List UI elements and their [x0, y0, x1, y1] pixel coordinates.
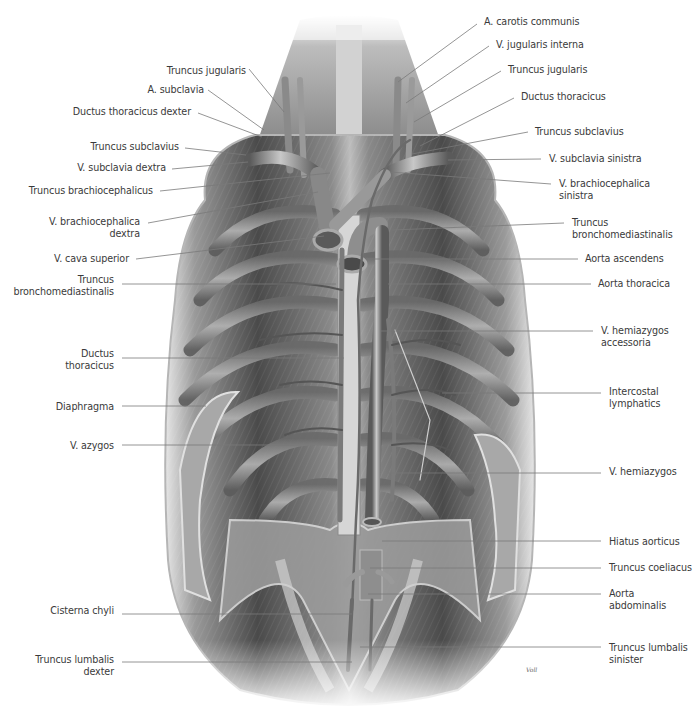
label-v-brachiocephalica-dextra: V. brachiocephalicadextra: [49, 216, 140, 240]
label-text-line: thoracicus: [65, 360, 114, 372]
leader-line-ductus-thoracicus-dexter: [198, 113, 262, 137]
label-text-line: Truncus jugularis: [167, 65, 246, 77]
leader-line-v-jugularis-interna: [406, 46, 489, 103]
label-text-line: dextra: [49, 228, 140, 240]
label-aorta-thoracica: Aorta thoracica: [598, 278, 670, 290]
label-aorta-abdominalis: Aortaabdominalis: [609, 588, 666, 612]
label-text-line: Truncus lumbalis: [609, 642, 688, 654]
label-text-line: Truncus subclavius: [535, 126, 624, 138]
label-text-line: accessoria: [601, 337, 669, 349]
label-text-line: Truncus jugularis: [508, 64, 587, 76]
label-text-line: Truncus coeliacus: [609, 562, 692, 574]
label-text-line: dexter: [35, 666, 114, 678]
label-aorta-ascendens: Aorta ascendens: [585, 253, 664, 265]
label-text-line: V. cava superior: [54, 253, 129, 265]
label-text-line: Ductus thoracicus: [521, 91, 606, 103]
label-ductus-thoracicus-left-label: Ductusthoracicus: [65, 348, 114, 372]
label-truncus-subclavius-right: Truncus subclavius: [90, 141, 179, 153]
label-text-line: V. brachiocephalica: [559, 178, 650, 190]
label-text-line: bronchomediastinalis: [13, 286, 114, 298]
label-text-line: Hiatus aorticus: [609, 536, 680, 548]
label-v-subclavia-sinistra: V. subclavia sinistra: [549, 153, 642, 165]
label-text-line: A. subclavia: [147, 84, 204, 96]
label-text-line: A. carotis communis: [484, 16, 580, 28]
label-v-hemiazygos: V. hemiazygos: [609, 466, 677, 478]
label-text-line: V. subclavia dextra: [77, 162, 166, 174]
label-cisterna-chyli: Cisterna chyli: [50, 605, 114, 617]
label-v-jugularis-interna: V. jugularis interna: [496, 39, 584, 51]
label-text-line: Aorta thoracica: [598, 278, 670, 290]
label-truncus-coeliacus: Truncus coeliacus: [609, 562, 692, 574]
label-text-line: Truncus: [572, 217, 673, 229]
label-text-line: Intercostal: [609, 386, 660, 398]
label-truncus-bronchomediastinalis-left: Truncusbronchomediastinalis: [572, 217, 673, 241]
label-hiatus-aorticus: Hiatus aorticus: [609, 536, 680, 548]
label-text-line: Truncus subclavius: [90, 141, 179, 153]
label-v-hemiazygos-accessoria: V. hemiazygosaccessoria: [601, 325, 669, 349]
label-text-line: abdominalis: [609, 600, 666, 612]
label-text-line: lymphatics: [609, 398, 660, 410]
leader-line-a-subclavia: [208, 90, 264, 130]
label-text-line: V. azygos: [70, 440, 114, 452]
label-text-line: Truncus lumbalis: [35, 654, 114, 666]
label-text-line: Diaphragma: [56, 401, 114, 413]
label-text-line: V. hemiazygos: [601, 325, 669, 337]
label-text-line: V. subclavia sinistra: [549, 153, 642, 165]
label-intercostal-lymphatics: Intercostallymphatics: [609, 386, 660, 410]
label-text-line: V. jugularis interna: [496, 39, 584, 51]
label-text-line: Aorta ascendens: [585, 253, 664, 265]
label-ductus-thoracicus-dexter: Ductus thoracicus dexter: [73, 106, 191, 118]
label-v-cava-superior: V. cava superior: [54, 253, 129, 265]
label-ductus-thoracicus: Ductus thoracicus: [521, 91, 606, 103]
label-text-line: V. brachiocephalica: [49, 216, 140, 228]
label-text-line: Ductus: [65, 348, 114, 360]
label-text-line: bronchomediastinalis: [572, 229, 673, 241]
leader-line-ductus-thoracicus: [420, 98, 514, 146]
label-a-carotis-communis: A. carotis communis: [484, 16, 580, 28]
label-truncus-lumbalis-sinister: Truncus lumbalissinister: [609, 642, 688, 666]
label-diaphragma: Diaphragma: [56, 401, 114, 413]
label-v-subclavia-dextra: V. subclavia dextra: [77, 162, 166, 174]
label-truncus-subclavius-left: Truncus subclavius: [535, 126, 624, 138]
artist-signature: Voll: [526, 666, 537, 673]
label-a-subclavia: A. subclavia: [147, 84, 204, 96]
label-v-azygos: V. azygos: [70, 440, 114, 452]
label-truncus-brachiocephalicus: Truncus brachiocephalicus: [29, 185, 153, 197]
label-text-line: Aorta: [609, 588, 666, 600]
label-text-line: V. hemiazygos: [609, 466, 677, 478]
label-v-brachiocephalica-sinistra: V. brachiocephalicasinistra: [559, 178, 650, 202]
label-text-line: Truncus brachiocephalicus: [29, 185, 153, 197]
label-text-line: Truncus: [13, 274, 114, 286]
label-text-line: sinistra: [559, 190, 650, 202]
leader-line-truncus-jugularis-left: [414, 71, 501, 122]
label-text-line: Ductus thoracicus dexter: [73, 106, 191, 118]
label-text-line: sinister: [609, 654, 688, 666]
label-truncus-jugularis-right: Truncus jugularis: [167, 65, 246, 77]
label-truncus-bronchomediastinalis-right: Truncusbronchomediastinalis: [13, 274, 114, 298]
label-text-line: Cisterna chyli: [50, 605, 114, 617]
label-truncus-lumbalis-dexter: Truncus lumbalisdexter: [35, 654, 114, 678]
label-truncus-jugularis-left: Truncus jugularis: [508, 64, 587, 76]
